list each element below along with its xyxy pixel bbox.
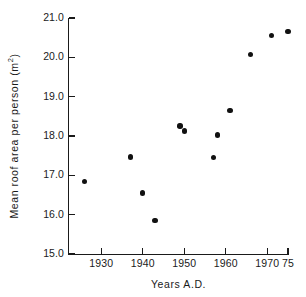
- x-tick-mark: [267, 248, 268, 254]
- y-axis-title-superscript: 2: [6, 58, 15, 63]
- x-tick-mark: [142, 248, 143, 254]
- y-tick-label: 15.0: [22, 247, 64, 259]
- y-tick-label: 17.0: [22, 168, 64, 180]
- data-point: [128, 154, 133, 159]
- data-point: [182, 128, 187, 133]
- data-point: [211, 155, 216, 160]
- data-point: [227, 108, 232, 113]
- data-point: [269, 33, 274, 38]
- y-tick-mark: [69, 214, 75, 215]
- data-point: [285, 29, 290, 34]
- y-axis-title: Mean roof area per person (m2): [6, 18, 24, 254]
- y-tick-mark: [69, 175, 75, 176]
- x-tick-label: 1940: [131, 257, 155, 269]
- data-point: [82, 179, 87, 184]
- x-tick-mark: [287, 248, 288, 254]
- y-tick-label: 18.0: [22, 129, 64, 141]
- x-tick-mark: [184, 248, 185, 254]
- y-tick-mark: [69, 96, 75, 97]
- y-axis-title-suffix: ): [8, 53, 20, 57]
- x-tick-mark: [225, 248, 226, 254]
- y-axis-title-text: Mean roof area per person (m: [8, 62, 20, 218]
- data-point: [215, 132, 220, 137]
- x-tick-label: 1970: [255, 257, 279, 269]
- x-tick-mark: [101, 248, 102, 254]
- y-tick-mark: [69, 57, 75, 58]
- x-axis-title: Years A.D.: [68, 278, 289, 290]
- y-tick-label: 16.0: [22, 208, 64, 220]
- y-tick-mark: [69, 17, 75, 18]
- data-point: [152, 218, 157, 223]
- x-tick-label: 1960: [214, 257, 238, 269]
- x-tick-label: 75: [282, 257, 294, 269]
- scatter-chart-figure: 15.016.017.018.019.020.021.0 19301940195…: [0, 0, 306, 297]
- data-point: [140, 190, 145, 195]
- y-tick-label: 20.0: [22, 50, 64, 62]
- x-tick-label: 1930: [89, 257, 113, 269]
- y-tick-mark: [69, 135, 75, 136]
- y-tick-label: 21.0: [22, 11, 64, 23]
- y-tick-mark: [69, 253, 75, 254]
- x-tick-label: 1950: [172, 257, 196, 269]
- y-tick-label: 19.0: [22, 90, 64, 102]
- data-point: [248, 52, 253, 57]
